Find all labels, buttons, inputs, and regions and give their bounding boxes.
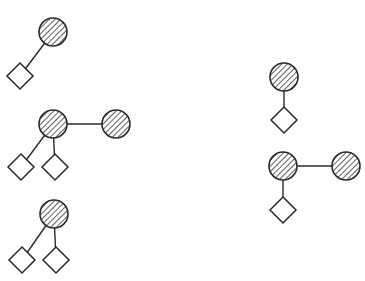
- open-diamond-node: [270, 197, 296, 223]
- motif-2-edges: [21, 124, 116, 167]
- nodes-layer: [7, 18, 360, 273]
- hatched-circle-node: [270, 63, 298, 91]
- hatched-circle-node: [269, 152, 297, 180]
- motif-2: [8, 110, 130, 180]
- open-diamond-node: [43, 247, 69, 273]
- open-diamond-node: [9, 247, 35, 273]
- open-diamond-node: [271, 107, 297, 133]
- open-diamond-node: [8, 154, 34, 180]
- hatched-circle-node: [39, 110, 67, 138]
- hatched-circle-node: [102, 110, 130, 138]
- motif-diagram: [0, 0, 365, 281]
- open-diamond-node: [42, 154, 68, 180]
- hatched-circle-node: [40, 200, 68, 228]
- open-diamond-node: [7, 63, 33, 89]
- hatched-circle-node: [332, 152, 360, 180]
- hatched-circle-node: [39, 18, 67, 46]
- edges-layer: [20, 32, 346, 260]
